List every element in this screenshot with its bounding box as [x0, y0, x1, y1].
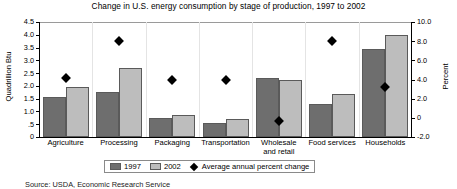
right-tick-label: 8.0 [417, 38, 427, 45]
bar-1997 [309, 104, 332, 137]
category-separator [146, 22, 147, 137]
legend-entry-1997: 1997 [110, 163, 141, 171]
diamond-marker-icon [327, 36, 337, 46]
category-separator [199, 22, 200, 137]
category-separator [305, 22, 306, 137]
category-separator [252, 22, 253, 137]
left-tick-label: 1.0 [24, 108, 34, 115]
legend-label-1997: 1997 [124, 163, 141, 171]
right-tick-label: -2.0 [417, 133, 430, 140]
legend-entry-percent-change: Average annual percent change [190, 163, 310, 171]
left-tick-mark [36, 137, 39, 138]
category-separator [92, 22, 93, 137]
legend-swatch-2002 [150, 163, 161, 170]
chart-title: Change in U.S. energy consumption by sta… [0, 1, 457, 11]
bar-2002 [172, 115, 195, 137]
right-tick-label: 10.0 [417, 18, 431, 25]
right-tick-mark [412, 99, 415, 100]
legend-entry-2002: 2002 [150, 163, 181, 171]
category-label: Food services [305, 139, 358, 148]
legend-label-percent-change: Average annual percent change [202, 163, 310, 171]
category-label: Wholesale and retail [252, 139, 305, 156]
bar-1997 [43, 97, 66, 137]
left-tick-label: 2.0 [24, 82, 34, 89]
left-tick-label: 3.0 [24, 57, 34, 64]
energy-consumption-chart: Change in U.S. energy consumption by sta… [0, 0, 457, 189]
right-tick-label: 0 [417, 114, 421, 121]
right-tick-mark [412, 118, 415, 119]
left-tick-label: .5 [28, 121, 34, 128]
right-tick-label: 4.0 [417, 76, 427, 83]
right-tick-label: 2.0 [417, 95, 427, 102]
category-separator [359, 22, 360, 137]
bar-2002 [279, 80, 302, 138]
right-tick-mark [412, 137, 415, 138]
bar-2002 [332, 94, 355, 137]
right-tick-mark [412, 22, 415, 23]
left-tick-label: 3.5 [24, 44, 34, 51]
diamond-marker-icon [221, 75, 231, 85]
category-label: Households [359, 139, 412, 148]
legend-swatch-1997 [110, 163, 121, 170]
diamond-marker-icon [167, 75, 177, 85]
chart-legend: 1997 2002 Average annual percent change [104, 160, 315, 173]
left-tick-label: 0 [30, 133, 34, 140]
bar-1997 [362, 49, 385, 137]
category-label: Transportation [199, 139, 252, 148]
category-label: Processing [92, 139, 145, 148]
category-label: Agriculture [39, 139, 92, 148]
right-tick-mark [412, 80, 415, 81]
source-note: Source: USDA, Economic Research Service [25, 180, 170, 189]
left-tick-label: 1.5 [24, 95, 34, 102]
diamond-marker-icon [61, 73, 71, 83]
bar-2002 [119, 68, 142, 137]
bar-2002 [226, 119, 249, 137]
bar-1997 [256, 78, 279, 137]
right-tick-mark [412, 41, 415, 42]
left-tick-label: 4.0 [24, 31, 34, 38]
left-axis-title: Quadrillion Btu [4, 42, 13, 112]
right-axis-title: Percent [441, 42, 450, 112]
left-tick-label: 4.5 [24, 18, 34, 25]
bar-1997 [149, 118, 172, 137]
bar-1997 [96, 92, 119, 137]
right-tick-label: 6.0 [417, 57, 427, 64]
left-tick-label: 2.5 [24, 70, 34, 77]
diamond-marker-icon [114, 36, 124, 46]
diamond-marker-icon [190, 162, 198, 170]
legend-label-2002: 2002 [164, 163, 181, 171]
bar-2002 [66, 87, 89, 137]
category-label: Packaging [146, 139, 199, 148]
right-tick-mark [412, 60, 415, 61]
bar-1997 [203, 123, 226, 137]
plot-area [39, 22, 412, 137]
